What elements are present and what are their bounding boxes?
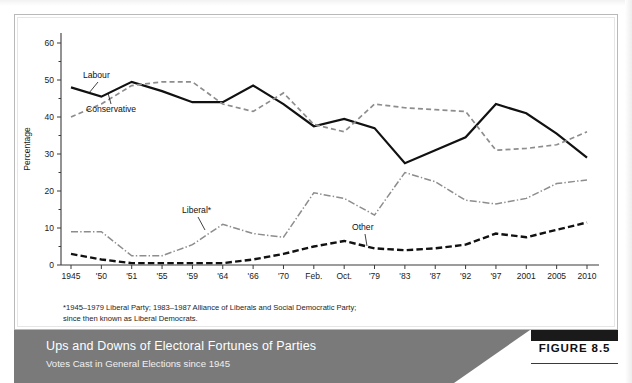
- annotation-liberal-leader: [198, 217, 205, 230]
- caption-band-wedge: [454, 330, 530, 383]
- annotation-labour: Labour: [83, 70, 110, 80]
- scan-edge-right: [625, 0, 632, 383]
- figure-badge-bar: [531, 330, 618, 341]
- x-tick-label: 1945: [62, 271, 81, 280]
- annotation-liberal: Liberal*: [182, 205, 212, 215]
- series-line-other: [71, 222, 587, 263]
- x-tick-label: '64: [217, 271, 228, 280]
- series-line-conservative: [71, 82, 587, 150]
- caption-subtitle: Votes Cast in General Elections since 19…: [46, 358, 230, 369]
- figure-badge-rule: [531, 363, 618, 364]
- x-tick-label: Oct.: [336, 271, 352, 280]
- x-ticks-group: 1945'50'51'55'59'64'66'70Feb.'74Oct.'74'…: [62, 265, 597, 280]
- x-tick-label: '92: [460, 271, 471, 280]
- x-tick-label: '79: [369, 271, 380, 280]
- x-tick-label: 2001: [517, 271, 536, 280]
- caption-title: Ups and Downs of Electoral Fortunes of P…: [46, 339, 316, 353]
- footnote-line-1: *1945–1979 Liberal Party; 1983–1987 Alli…: [63, 302, 563, 313]
- y-tick-label: 50: [45, 75, 55, 85]
- y-axis-title: Percentage: [22, 127, 32, 171]
- series-annotations-group: Labour Conservative Liberal* Other: [83, 70, 374, 246]
- footnote-line-2: since then known as Liberal Democrats.: [63, 313, 563, 324]
- y-tick-label: 60: [45, 38, 55, 48]
- x-tick-label: '97: [490, 271, 501, 280]
- x-tick-label: '70: [278, 271, 289, 280]
- annotation-conservative: Conservative: [86, 104, 136, 114]
- figure-badge-label: FIGURE 8.5: [531, 342, 618, 354]
- scan-edge-top: [0, 0, 632, 6]
- x-tick-label: 2005: [547, 271, 566, 280]
- x-tick-label: '83: [399, 271, 410, 280]
- x-tick-label: '66: [248, 271, 259, 280]
- annotation-other: Other: [352, 222, 374, 232]
- x-tick-label: '87: [430, 271, 441, 280]
- x-tick-label: '51: [126, 271, 137, 280]
- y-tick-label: 20: [45, 186, 55, 196]
- footnote: *1945–1979 Liberal Party; 1983–1987 Alli…: [63, 302, 563, 325]
- x-tick-label: '50: [96, 271, 107, 280]
- annotation-other-leader: [365, 234, 367, 246]
- annotation-labour-leader: [89, 82, 98, 93]
- series-line-liberal: [71, 173, 587, 256]
- y-tick-label: 0: [49, 260, 54, 270]
- series-group: [71, 82, 587, 263]
- y-tick-label: 10: [45, 223, 55, 233]
- caption-band-fill: [14, 330, 454, 383]
- series-line-labour: [71, 82, 587, 163]
- figure-badge: FIGURE 8.5: [531, 330, 618, 365]
- chart-card: 0102030405060 1945'50'51'55'59'64'66'70F…: [14, 14, 618, 330]
- figure-container: 0102030405060 1945'50'51'55'59'64'66'70F…: [0, 0, 632, 383]
- y-tick-label: 40: [45, 112, 55, 122]
- caption-band: Ups and Downs of Electoral Fortunes of P…: [14, 330, 618, 383]
- x-tick-label: '59: [187, 271, 198, 280]
- y-ticks-group: 0102030405060: [45, 38, 61, 270]
- x-tick-label: Feb.: [305, 271, 322, 280]
- y-tick-label: 30: [45, 149, 55, 159]
- x-tick-label: 2010: [578, 271, 597, 280]
- x-tick-label: '55: [157, 271, 168, 280]
- line-chart-plot: 0102030405060 1945'50'51'55'59'64'66'70F…: [15, 15, 619, 280]
